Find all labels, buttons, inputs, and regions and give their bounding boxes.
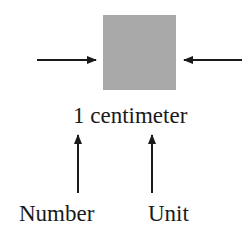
number-label: Number [19,202,94,225]
unit-label: Unit [148,202,189,225]
measurement-label: 1 centimeter [73,104,187,127]
